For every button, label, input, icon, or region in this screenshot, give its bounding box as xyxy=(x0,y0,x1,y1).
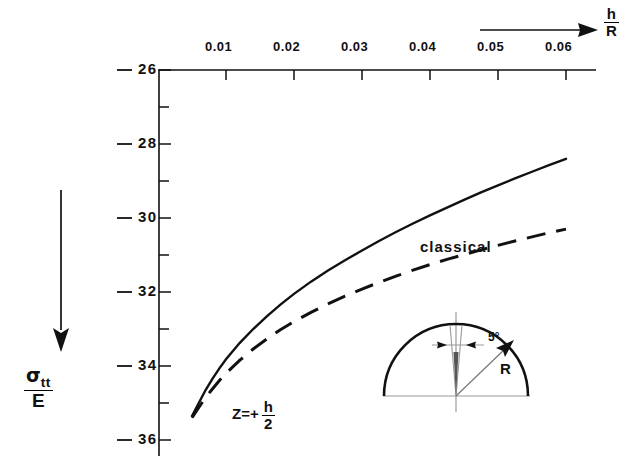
inset-angle-label: 5° xyxy=(488,330,499,344)
z-condition-label: Z=+ h 2 xyxy=(232,399,275,432)
y-axis-title-denominator: E xyxy=(24,390,53,411)
x-tick-label: 0.02 xyxy=(273,39,300,54)
y-tick-label: 32 xyxy=(138,282,158,299)
y-axis-title: σtt E xyxy=(24,366,53,411)
y-tick-label: 36 xyxy=(138,430,158,447)
x-axis-title: h R xyxy=(604,6,619,39)
x-axis-title-numerator: h xyxy=(604,6,619,22)
z-symbol: Z xyxy=(232,405,241,422)
x-tick-label: 0.04 xyxy=(409,39,436,54)
sigma-symbol: σ xyxy=(26,364,41,386)
curve-improved xyxy=(192,159,566,416)
y-tick-label: 26 xyxy=(138,60,158,77)
y-tick-label: 30 xyxy=(138,208,158,225)
y-axis-ticks xyxy=(117,70,132,440)
y-tick-label: 28 xyxy=(138,134,158,151)
sigma-subscript: tt xyxy=(41,375,51,390)
curve-classical xyxy=(192,229,566,418)
x-axis-title-denominator: R xyxy=(604,22,619,39)
x-axis-ticks xyxy=(226,70,566,80)
z-numerator: h xyxy=(262,399,275,415)
y-direction-arrow xyxy=(53,190,69,352)
z-denominator: 2 xyxy=(262,415,275,432)
y-tick-label: 34 xyxy=(138,356,158,373)
x-tick-label: 0.03 xyxy=(341,39,368,54)
inset-radius-label: R xyxy=(500,360,511,377)
x-tick-label: 0.05 xyxy=(477,39,504,54)
classical-curve-label: classical xyxy=(420,238,492,255)
chart-axes xyxy=(158,70,596,456)
data-curves xyxy=(192,159,566,418)
y-axis-inner-ticks xyxy=(159,70,171,440)
y-axis-title-numerator: σtt xyxy=(24,366,53,390)
z-equals: =+ xyxy=(241,405,259,422)
x-tick-label: 0.06 xyxy=(545,39,572,54)
x-direction-arrow xyxy=(480,23,598,37)
stress-distribution-chart xyxy=(0,0,642,476)
x-tick-label: 0.01 xyxy=(205,39,232,54)
